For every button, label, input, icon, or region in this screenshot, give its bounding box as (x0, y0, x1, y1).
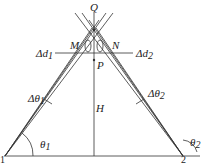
label-delta-theta2: Δθ2 (147, 87, 165, 101)
label-delta-d2: Δd2 (135, 47, 153, 61)
label-delta-theta1: Δθ1 (27, 92, 45, 106)
label-q: Q (90, 1, 98, 13)
label-n: N (111, 39, 120, 51)
label-point-2: 2 (181, 154, 186, 163)
label-p: P (96, 59, 104, 71)
rays-from-point-2 (75, 13, 183, 156)
label-point-1: 1 (0, 154, 5, 163)
label-delta-d1: Δd1 (35, 47, 53, 61)
theta1-arc (22, 133, 33, 156)
triangulation-diagram: Q M N P H Δd1 Δd2 Δθ1 Δθ2 θ1 θ2 1 2 (0, 0, 203, 163)
label-h: H (95, 102, 105, 114)
point-q-dot (93, 29, 95, 31)
label-theta1: θ1 (40, 138, 50, 152)
point-p-dot (93, 59, 95, 61)
label-m: M (69, 39, 80, 51)
label-theta2: θ2 (190, 136, 200, 150)
